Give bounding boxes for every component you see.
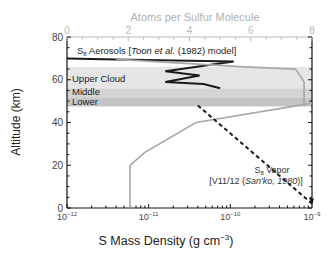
series-line <box>198 105 312 203</box>
label-lower-cloud: Lower <box>72 96 98 107</box>
label-s8-aerosols: S8 Aerosols [Toon et al. (1982) model] <box>77 45 236 57</box>
cloud-layer-middle <box>67 88 312 98</box>
y-axis-title: Altitude (km) <box>9 88 23 155</box>
label-s8-vapor: S8 Vapor <box>254 165 289 176</box>
y-tick-label: 40 <box>52 117 64 128</box>
chart: 02040608010−1210−1110−1010−902468 Atoms … <box>0 0 332 261</box>
top-tick-label: 8 <box>309 25 315 36</box>
y-tick-label: 60 <box>52 74 64 85</box>
top-tick-label: 2 <box>125 25 131 36</box>
y-tick-label: 80 <box>52 32 64 43</box>
cloud-layer-lower <box>67 98 312 107</box>
y-tick-label: 20 <box>52 160 64 171</box>
top-tick-label: 0 <box>64 25 70 36</box>
label-v11-12: [V11/12 (San'ko, 1980)] <box>209 176 303 186</box>
top-tick-label: 6 <box>248 25 254 36</box>
x-tick-label: 10−12 <box>57 211 78 222</box>
series-line <box>130 103 312 208</box>
label-upper-cloud: Upper Cloud <box>72 73 125 84</box>
x-tick-label: 10−10 <box>220 211 241 222</box>
top-tick-label: 4 <box>187 25 193 36</box>
x-tick-label: 10−9 <box>304 211 322 222</box>
x-axis-title: S Mass Density (g cm−3) <box>99 233 234 248</box>
x-tick-label: 10−11 <box>139 211 159 222</box>
top-axis-title: Atoms per Sulfur Molecule <box>131 11 260 23</box>
